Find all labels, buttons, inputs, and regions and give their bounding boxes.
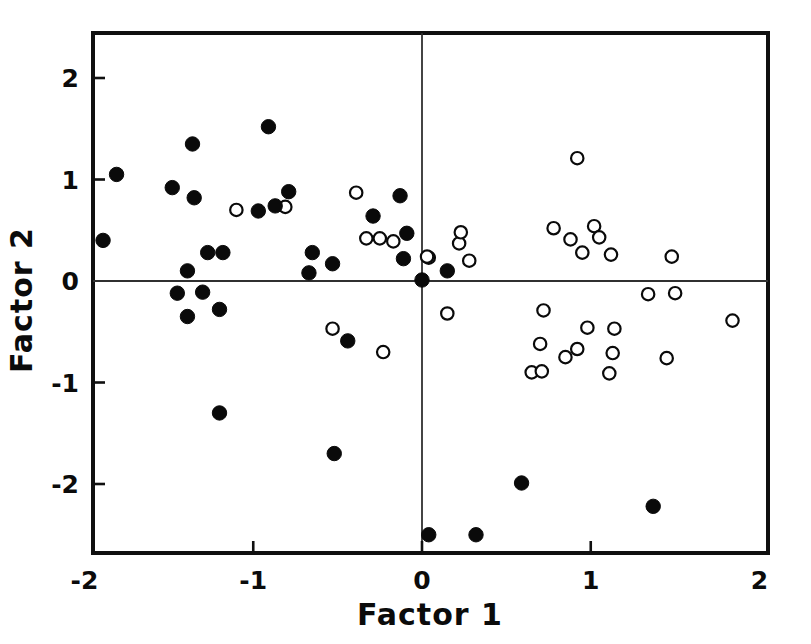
data-point-filled (327, 446, 341, 460)
data-point-filled (440, 264, 454, 278)
data-point-open (593, 231, 605, 243)
data-point-filled (185, 137, 199, 151)
data-point-open (421, 250, 433, 262)
plot-svg: -2-1012 210-1-2 Factor 1 Factor 2 (0, 0, 811, 644)
data-point-open (726, 314, 738, 326)
data-point-open (605, 248, 617, 260)
data-point-filled (180, 264, 194, 278)
x-tick-label: 1 (582, 566, 599, 595)
data-point-filled (268, 199, 282, 213)
y-tick-label: 0 (62, 267, 79, 296)
data-point-open (559, 351, 571, 363)
data-point-filled (514, 476, 528, 490)
data-point-filled (281, 184, 295, 198)
data-point-filled (212, 302, 226, 316)
data-point-open (571, 343, 583, 355)
plot-frame (93, 33, 768, 553)
data-points-filled-series (96, 120, 661, 542)
data-point-filled (187, 191, 201, 205)
data-point-filled (200, 245, 214, 259)
data-point-open (377, 346, 389, 358)
data-point-open (387, 235, 399, 247)
x-axis-title: Factor 1 (357, 597, 503, 632)
data-point-open (455, 226, 467, 238)
data-point-open (581, 321, 593, 333)
data-point-filled (325, 257, 339, 271)
data-point-filled (109, 167, 123, 181)
data-point-open (576, 246, 588, 258)
data-point-open (537, 304, 549, 316)
data-point-filled (396, 251, 410, 265)
data-point-filled (216, 245, 230, 259)
y-tick-label: 1 (62, 166, 79, 195)
scatter-plot-figure: -2-1012 210-1-2 Factor 1 Factor 2 (0, 0, 811, 644)
data-point-open (571, 152, 583, 164)
y-tick-label: 2 (62, 64, 79, 93)
x-tick-label: -2 (71, 566, 99, 595)
data-point-filled (415, 273, 429, 287)
data-point-filled (400, 226, 414, 240)
data-point-open (669, 287, 681, 299)
data-point-open (463, 255, 475, 267)
x-axis-tick-labels: -2-1012 (71, 566, 769, 595)
plot-frame-group (93, 33, 768, 553)
data-point-filled (165, 180, 179, 194)
x-tick-label: 0 (413, 566, 430, 595)
data-point-filled (646, 499, 660, 513)
data-point-open (230, 204, 242, 216)
data-point-open (642, 288, 654, 300)
data-point-filled (341, 334, 355, 348)
data-point-filled (261, 120, 275, 134)
data-point-filled (366, 209, 380, 223)
data-point-open (350, 186, 362, 198)
data-point-filled (469, 528, 483, 542)
data-point-filled (305, 245, 319, 259)
data-point-open (360, 232, 372, 244)
data-point-open (603, 367, 615, 379)
y-axis-tick-labels: 210-1-2 (51, 64, 79, 499)
data-point-open (660, 352, 672, 364)
data-point-open (326, 323, 338, 335)
data-point-open (536, 365, 548, 377)
y-tick-label: -2 (51, 470, 79, 499)
data-point-open (606, 347, 618, 359)
data-point-open (534, 338, 546, 350)
x-tick-label: -1 (239, 566, 267, 595)
y-tick-label: -1 (51, 369, 79, 398)
data-point-open (547, 222, 559, 234)
data-point-filled (170, 286, 184, 300)
y-axis-title: Factor 2 (4, 227, 39, 373)
data-point-open (666, 250, 678, 262)
data-point-open (608, 323, 620, 335)
data-point-filled (302, 266, 316, 280)
data-point-filled (212, 406, 226, 420)
data-point-filled (422, 528, 436, 542)
x-tick-label: 2 (751, 566, 768, 595)
reference-axis-lines (93, 33, 768, 553)
data-point-filled (180, 309, 194, 323)
data-point-open (374, 232, 386, 244)
data-point-filled (393, 189, 407, 203)
data-point-open (564, 233, 576, 245)
data-point-filled (251, 204, 265, 218)
data-point-open (441, 307, 453, 319)
data-point-filled (96, 233, 110, 247)
data-point-filled (195, 285, 209, 299)
